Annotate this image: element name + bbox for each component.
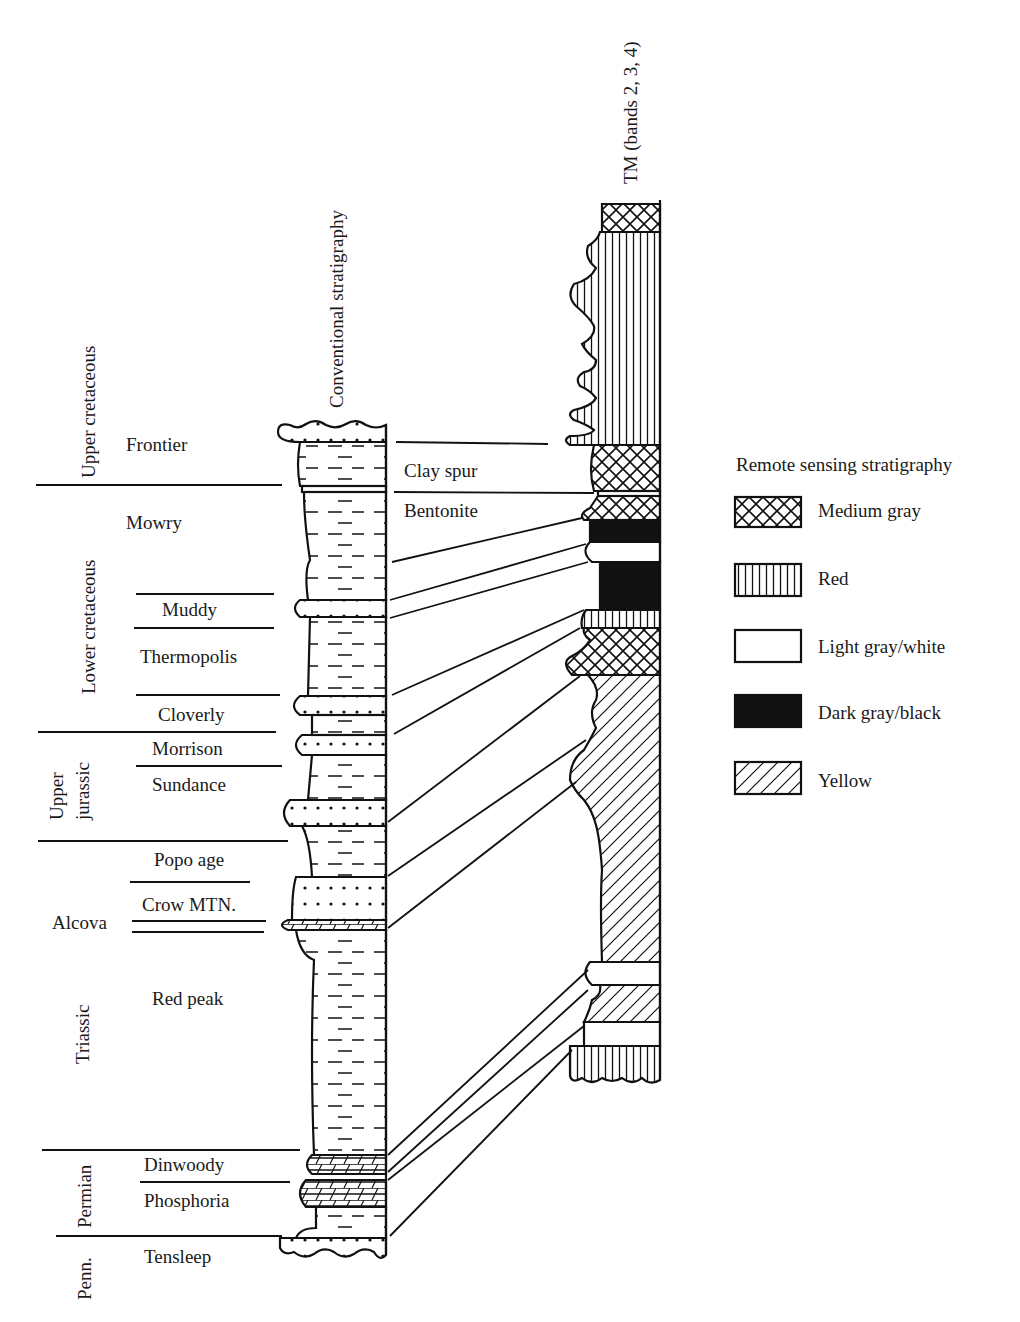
period-alcova: Alcova bbox=[52, 912, 107, 934]
formation-morrison: Morrison bbox=[152, 738, 223, 760]
legend-label-dark-gray-black: Dark gray/black bbox=[818, 702, 941, 724]
formation-frontier: Frontier bbox=[126, 434, 187, 456]
legend-label-medium-gray: Medium gray bbox=[818, 500, 921, 522]
period-upper-jurassic-line1: Upper bbox=[46, 773, 68, 820]
swatch-dark-gray-black bbox=[735, 695, 801, 727]
legend-label-light-gray-white: Light gray/white bbox=[818, 636, 945, 658]
formation-popo-agie: Popo age bbox=[154, 849, 224, 871]
formation-dinwoody: Dinwoody bbox=[144, 1154, 224, 1176]
formation-muddy: Muddy bbox=[162, 599, 217, 621]
formation-thermopolis: Thermopolis bbox=[140, 646, 237, 668]
formation-cloverly: Cloverly bbox=[158, 704, 225, 726]
correlation-lines bbox=[388, 442, 594, 1236]
formation-crow-mtn: Crow MTN. bbox=[142, 894, 236, 916]
formation-tensleep: Tensleep bbox=[144, 1246, 211, 1268]
formation-red-peak: Red peak bbox=[152, 988, 223, 1010]
swatch-medium-gray bbox=[735, 497, 801, 527]
swatch-light-gray-white bbox=[735, 630, 801, 662]
formation-sundance: Sundance bbox=[152, 774, 226, 796]
period-penn: Penn. bbox=[74, 1257, 96, 1300]
legend-title: Remote sensing stratigraphy bbox=[736, 454, 952, 476]
period-upper-jurassic-line2: jurassic bbox=[72, 762, 94, 820]
tm-column bbox=[566, 200, 660, 1083]
period-permian: Permian bbox=[74, 1165, 96, 1228]
legend-label-yellow: Yellow bbox=[818, 770, 872, 792]
legend-label-red: Red bbox=[818, 568, 849, 590]
conventional-column bbox=[278, 421, 386, 1258]
marker-bentonite: Bentonite bbox=[404, 500, 478, 522]
swatch-yellow bbox=[735, 762, 801, 794]
legend-swatches bbox=[735, 497, 801, 794]
tm-column-title: TM (bands 2, 3, 4) bbox=[620, 42, 642, 184]
swatch-red bbox=[735, 564, 801, 596]
formation-phosphoria: Phosphoria bbox=[144, 1190, 230, 1212]
period-triassic: Triassic bbox=[72, 1005, 94, 1064]
conventional-column-title: Conventional stratigraphy bbox=[326, 210, 348, 408]
period-upper-cretaceous: Upper cretaceous bbox=[78, 346, 100, 478]
formation-mowry: Mowry bbox=[126, 512, 182, 534]
period-lower-cretaceous: Lower cretaceous bbox=[78, 559, 100, 694]
marker-clay-spur: Clay spur bbox=[404, 460, 477, 482]
